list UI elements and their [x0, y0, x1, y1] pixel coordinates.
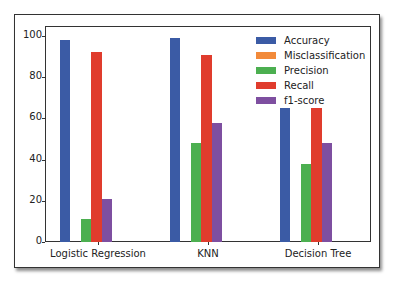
bar-f1-score: [102, 199, 113, 242]
legend-item: Recall: [256, 78, 314, 92]
y-tick-mark: [42, 201, 45, 202]
bar-precision: [81, 219, 92, 242]
y-tick-label: 40: [18, 153, 42, 164]
x-tick-label: Logistic Regression: [38, 248, 158, 259]
x-tick-mark: [208, 242, 209, 245]
x-tick-label: Decision Tree: [258, 248, 378, 259]
y-tick-mark: [42, 118, 45, 119]
bar-f1-score: [212, 123, 223, 242]
x-tick-mark: [318, 242, 319, 245]
bar-accuracy: [170, 38, 181, 242]
bar-recall: [201, 55, 212, 242]
legend-item: f1-score: [256, 93, 324, 107]
legend: AccuracyMisclassificationPrecisionRecall…: [250, 33, 365, 145]
legend-swatch: [256, 82, 276, 89]
x-tick-label: KNN: [148, 248, 268, 259]
y-tick-label: 80: [18, 70, 42, 81]
bar-precision: [301, 164, 312, 242]
legend-item: Misclassification: [256, 48, 365, 62]
y-tick-mark: [42, 242, 45, 243]
y-tick-mark: [42, 36, 45, 37]
legend-swatch: [256, 97, 276, 104]
legend-label: Recall: [284, 80, 314, 91]
y-tick-mark: [42, 77, 45, 78]
bar-recall: [91, 52, 102, 242]
bar-accuracy: [60, 40, 71, 242]
x-tick-mark: [98, 242, 99, 245]
legend-label: f1-score: [284, 95, 324, 106]
legend-item: Accuracy: [256, 33, 330, 47]
legend-label: Accuracy: [284, 35, 330, 46]
legend-swatch: [256, 52, 276, 59]
legend-swatch: [256, 37, 276, 44]
bar-f1-score: [322, 143, 333, 242]
y-tick-label: 0: [18, 235, 42, 246]
y-tick-label: 20: [18, 194, 42, 205]
legend-item: Precision: [256, 63, 329, 77]
y-tick-label: 60: [18, 111, 42, 122]
legend-label: Misclassification: [284, 50, 365, 61]
y-tick-label: 100: [18, 29, 42, 40]
bar-precision: [191, 143, 202, 242]
legend-swatch: [256, 67, 276, 74]
y-tick-mark: [42, 160, 45, 161]
legend-label: Precision: [284, 65, 329, 76]
